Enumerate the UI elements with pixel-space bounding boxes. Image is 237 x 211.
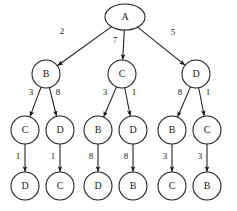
node-label: C	[57, 180, 64, 191]
tree-node[interactable]: B	[32, 60, 60, 88]
edge-weight-label: 3	[103, 87, 108, 97]
tree-node[interactable]: B	[158, 116, 186, 144]
node-label: B	[130, 180, 137, 191]
tree-edge	[125, 88, 131, 116]
node-label: D	[21, 180, 28, 191]
nodes-layer: ABCDCDBDBCDCDBCB	[11, 4, 221, 200]
edges-layer	[25, 27, 207, 172]
node-label: D	[56, 124, 63, 135]
tree-node[interactable]: C	[158, 172, 186, 200]
tree-edge	[58, 27, 112, 66]
edge-weight-label: 1	[206, 87, 211, 97]
edge-weight-label: 8	[124, 151, 129, 161]
tree-node[interactable]: B	[119, 172, 147, 200]
node-label: B	[43, 68, 50, 79]
tree-node[interactable]: D	[119, 116, 147, 144]
tree-diagram: ABCDCDBDBCDCDBCB 275383181118833	[0, 0, 237, 211]
node-label: C	[169, 180, 176, 191]
edge-weight-label: 3	[163, 151, 168, 161]
node-label: C	[204, 124, 211, 135]
tree-node[interactable]: C	[11, 116, 39, 144]
node-label: C	[119, 68, 126, 79]
edge-weight-label: 8	[178, 87, 183, 97]
tree-node[interactable]: D	[46, 116, 74, 144]
tree-node[interactable]: D	[11, 172, 39, 200]
node-label: B	[169, 124, 176, 135]
tree-node[interactable]: A	[105, 4, 145, 30]
node-label: B	[204, 180, 211, 191]
edge-weight-label: 7	[113, 35, 118, 45]
edge-weight-label: 8	[89, 151, 94, 161]
node-label: C	[22, 124, 29, 135]
edge-weight-label: 1	[51, 151, 56, 161]
tree-edge	[138, 27, 185, 65]
tree-node[interactable]: D	[84, 172, 112, 200]
node-label: A	[121, 11, 129, 22]
tree-node[interactable]: B	[84, 116, 112, 144]
tree-node[interactable]: D	[182, 60, 210, 88]
tree-node[interactable]: B	[193, 172, 221, 200]
tree-node[interactable]: C	[46, 172, 74, 200]
node-label: D	[94, 180, 101, 191]
tree-diagram-canvas: ABCDCDBDBCDCDBCB 275383181118833	[0, 0, 237, 211]
tree-edge	[199, 88, 205, 116]
node-label: B	[95, 124, 102, 135]
edge-weight-label: 1	[16, 151, 21, 161]
node-label: D	[192, 68, 199, 79]
edge-weight-label: 2	[60, 26, 65, 36]
edge-weight-label: 3	[29, 87, 34, 97]
tree-edge	[123, 30, 125, 60]
edge-weight-label: 3	[198, 151, 203, 161]
edge-weight-label: 1	[132, 87, 137, 97]
edge-weight-label: 8	[56, 87, 61, 97]
tree-node[interactable]: C	[193, 116, 221, 144]
node-label: D	[129, 124, 136, 135]
edge-weight-label: 5	[171, 27, 176, 37]
tree-node[interactable]: C	[108, 60, 136, 88]
